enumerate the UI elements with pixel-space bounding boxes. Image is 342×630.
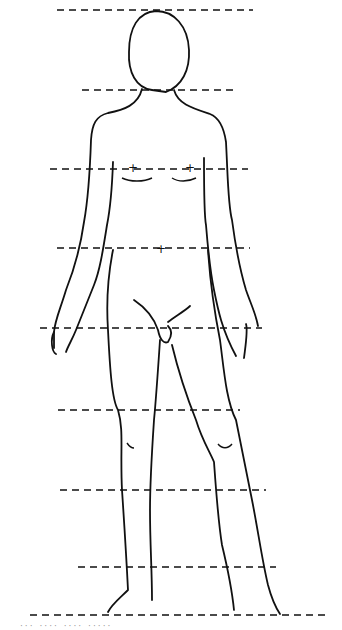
- right-knee: [218, 444, 232, 448]
- head: [129, 11, 189, 92]
- right-breast: [172, 178, 196, 181]
- left-torso: [107, 250, 128, 612]
- right-shoulder: [174, 90, 258, 326]
- left-knee: [127, 443, 134, 448]
- right-inner-leg: [172, 345, 234, 610]
- right-hand: [244, 324, 247, 358]
- navel-marker: +: [156, 242, 166, 256]
- groin: [134, 300, 190, 343]
- caption-text: ··· ···· ···· ·····: [20, 621, 320, 630]
- human-figure: + + +: [52, 11, 280, 614]
- left-breast: [122, 178, 152, 181]
- left-inner-arm: [66, 162, 113, 352]
- proportion-figure: + + +: [0, 0, 342, 630]
- right-nipple-marker: +: [185, 161, 195, 175]
- left-shoulder: [54, 89, 142, 348]
- right-torso: [208, 250, 280, 614]
- left-nipple-marker: +: [128, 161, 138, 175]
- left-inner-leg: [150, 340, 160, 600]
